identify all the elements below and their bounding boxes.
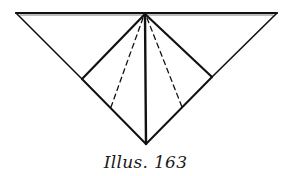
lower-right-edge — [146, 77, 212, 144]
outer-right-edge — [212, 13, 277, 77]
center-fold-line — [145, 14, 146, 144]
right-flap-edge — [145, 14, 212, 77]
figure-caption: Illus. 163 — [0, 152, 291, 172]
left-flap-edge — [82, 14, 145, 79]
outer-left-edge — [16, 13, 82, 79]
origami-fold-diagram — [0, 0, 291, 176]
lower-left-edge — [82, 79, 146, 144]
